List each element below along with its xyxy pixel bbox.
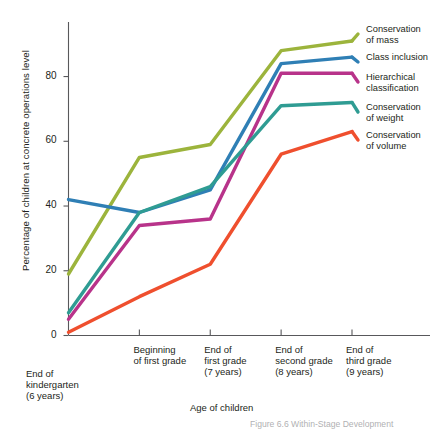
- legend-item: Conservation of volume: [366, 130, 421, 151]
- y-tick-label: 60: [31, 134, 57, 145]
- y-axis-ticks: [64, 77, 69, 336]
- series-line: [69, 41, 353, 274]
- y-tick-label: 40: [31, 199, 57, 210]
- x-axis-title: Age of children: [190, 402, 253, 413]
- legend-leader-line: [352, 73, 358, 82]
- legend-leader-line: [352, 57, 358, 62]
- y-axis-title-wrap: Percentage of children at concrete opera…: [4, 50, 22, 320]
- x-tick-label: End of first grade (7 years): [204, 344, 246, 378]
- y-tick-label: 0: [31, 329, 57, 340]
- legend-leader-line: [352, 34, 358, 41]
- x-tick-label: End of second grade (8 years): [275, 344, 333, 378]
- y-tick-label: 80: [31, 70, 57, 81]
- x-tick-label: Beginning of first grade: [133, 344, 186, 366]
- legend-leader-line: [352, 132, 358, 140]
- chart-figure: Percentage of children at concrete opera…: [0, 0, 442, 432]
- axes-layer: [64, 22, 431, 336]
- legend-leader-line: [352, 102, 358, 112]
- y-tick-label: 20: [31, 264, 57, 275]
- series-line: [69, 57, 353, 212]
- y-axis-title: Percentage of children at concrete opera…: [20, 50, 31, 271]
- x-tick-label: End of third grade (9 years): [346, 344, 391, 378]
- figure-caption: Figure 6.6 Within-Stage Development: [250, 419, 393, 429]
- x-tick-label: End of kindergarten (6 years): [26, 368, 79, 402]
- legend-item: Hierarchical classification: [366, 72, 419, 93]
- x-axis-ticks: [139, 330, 352, 336]
- legend-item: Class inclusion: [366, 52, 428, 63]
- legend-item: Conservation of weight: [366, 102, 421, 123]
- series-line: [69, 73, 353, 319]
- series-line: [69, 132, 353, 333]
- legend-item: Conservation of mass: [366, 24, 421, 45]
- data-series-layer: [69, 34, 359, 332]
